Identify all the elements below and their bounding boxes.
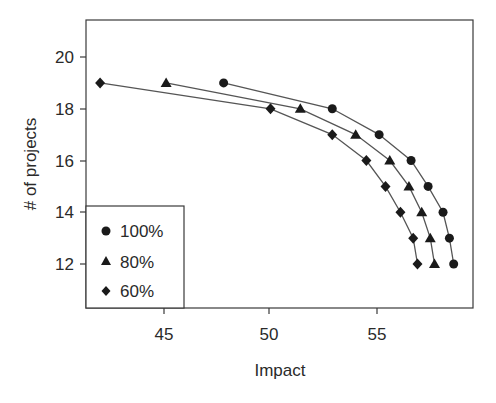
circle-marker-icon — [407, 156, 416, 165]
circle-marker-icon — [445, 234, 454, 243]
circle-marker-icon — [328, 104, 337, 113]
y-axis: 20 18 16 14 12 # of projects — [21, 48, 86, 274]
triangle-marker-icon — [429, 259, 440, 269]
legend: 100% 80% 60% — [86, 206, 184, 308]
triangle-marker-icon — [384, 155, 395, 165]
triangle-marker-icon — [161, 77, 172, 87]
triangle-marker-icon — [416, 207, 427, 217]
legend-label: 100% — [120, 222, 163, 241]
y-tick-label: 18 — [55, 100, 74, 119]
series-line — [224, 83, 454, 264]
diamond-marker-icon — [266, 103, 276, 114]
diamond-marker-icon — [327, 129, 337, 140]
diamond-marker-icon — [408, 233, 418, 244]
x-tick-label: 50 — [260, 325, 279, 344]
triangle-marker-icon — [403, 181, 414, 191]
y-tick-label: 14 — [55, 203, 74, 222]
legend-label: 60% — [120, 282, 154, 301]
triangle-marker-icon — [350, 129, 361, 139]
diamond-marker-icon — [395, 207, 405, 218]
y-axis-title: # of projects — [21, 118, 40, 211]
x-tick-label: 55 — [368, 325, 387, 344]
series-80pct — [161, 77, 440, 268]
x-tick-label: 45 — [155, 325, 174, 344]
y-tick-label: 20 — [55, 48, 74, 67]
triangle-marker-icon — [425, 233, 436, 243]
x-axis: 45 50 55 Impact — [155, 308, 387, 380]
y-tick-label: 12 — [55, 255, 74, 274]
x-axis-title: Impact — [254, 361, 305, 380]
circle-icon — [102, 227, 111, 236]
circle-marker-icon — [424, 182, 433, 191]
diamond-marker-icon — [412, 259, 422, 270]
circle-marker-icon — [439, 208, 448, 217]
legend-label: 80% — [120, 253, 154, 272]
circle-marker-icon — [219, 78, 228, 87]
diamond-marker-icon — [95, 77, 105, 88]
circle-marker-icon — [375, 130, 384, 139]
circle-marker-icon — [449, 260, 458, 269]
y-tick-label: 16 — [55, 152, 74, 171]
chart: 20 18 16 14 12 # of projects 45 50 55 Im… — [0, 0, 496, 403]
